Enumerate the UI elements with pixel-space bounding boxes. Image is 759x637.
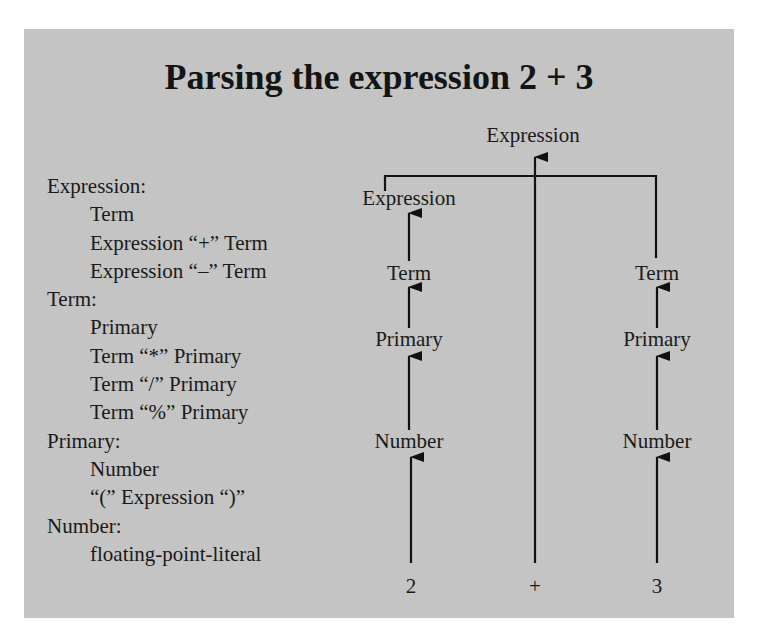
node-left-term: Term (387, 261, 431, 285)
node-left-primary: Primary (375, 327, 443, 351)
node-root-expression: Expression (486, 123, 579, 147)
node-left-expression: Expression (362, 186, 455, 210)
diagram-panel: Parsing the expression 2 + 3 Expression:… (24, 29, 734, 618)
token-3: 3 (652, 574, 663, 598)
node-left-number: Number (375, 429, 444, 453)
node-right-primary: Primary (623, 327, 691, 351)
parse-tree-edges (24, 29, 734, 618)
node-right-number: Number (623, 429, 692, 453)
node-right-term: Term (635, 261, 679, 285)
token-plus: + (529, 574, 541, 598)
token-2: 2 (406, 574, 417, 598)
